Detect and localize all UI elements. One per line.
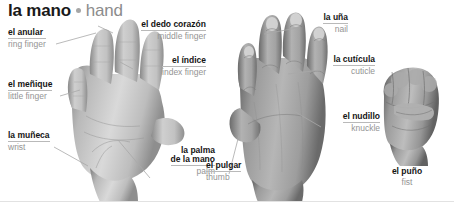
closed-hand-fist-view	[376, 62, 442, 166]
callout-anular: el anular ring finger	[8, 28, 46, 49]
callout-muneca-spanish: la muñeca	[8, 131, 50, 142]
callout-una-english: nail	[323, 24, 348, 34]
title-english: hand	[86, 1, 123, 20]
callout-una-spanish: la uña	[323, 13, 348, 24]
callout-pulgar: el pulgar thumb	[206, 161, 241, 182]
callout-muneca-english: wrist	[8, 142, 50, 152]
callout-dedo-corazon-spanish: el dedo corazón	[141, 20, 206, 31]
callout-anular-english: ring finger	[8, 39, 46, 49]
callout-menique-english: little finger	[8, 91, 52, 101]
open-hand-palm-view	[56, 16, 186, 202]
bullet-dot-icon	[76, 8, 81, 13]
callout-puno-english: fist	[372, 177, 442, 187]
callout-dedo-corazon: el dedo corazón middle finger	[141, 20, 206, 41]
vocabulary-illustration-panel: la manohand el anular ring finger el ded…	[0, 0, 454, 202]
callout-nudillo: el nudillo knuckle	[343, 112, 380, 133]
callout-puno-spanish: el puño	[372, 167, 442, 177]
callout-muneca: la muñeca wrist	[8, 131, 50, 152]
callout-menique-spanish: el meñique	[8, 80, 52, 91]
callout-cuticula-english: cuticle	[333, 66, 375, 76]
callout-nudillo-spanish: el nudillo	[343, 112, 380, 123]
callout-puno: el puño fist	[372, 167, 442, 187]
title-spanish: la mano	[8, 1, 71, 20]
callout-nudillo-english: knuckle	[343, 123, 380, 133]
callout-dedo-corazon-english: middle finger	[141, 31, 206, 41]
callout-cuticula: la cutícula cuticle	[333, 55, 375, 76]
callout-cuticula-spanish: la cutícula	[333, 55, 375, 66]
callout-una: la uña nail	[323, 13, 348, 34]
callout-menique: el meñique little finger	[8, 80, 52, 101]
callout-pulgar-spanish: el pulgar	[206, 161, 241, 172]
callout-indice-english: index finger	[162, 67, 206, 77]
open-hand-back-view	[228, 12, 334, 202]
callout-pulgar-english: thumb	[206, 172, 241, 182]
callout-indice-spanish: el índice	[162, 56, 206, 67]
page-title: la manohand	[8, 2, 123, 19]
callout-indice: el índice index finger	[162, 56, 206, 77]
callout-anular-spanish: el anular	[8, 28, 46, 39]
